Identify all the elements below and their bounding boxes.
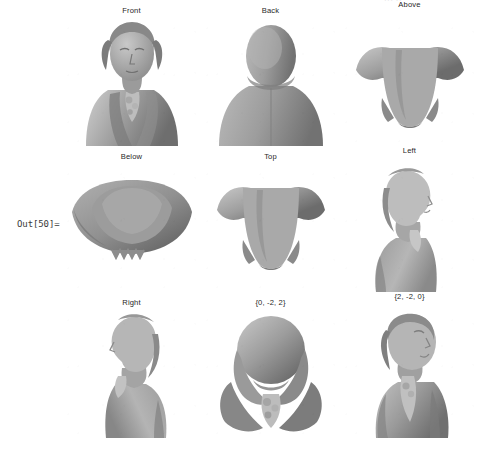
view-label: Top xyxy=(201,152,340,162)
view-grid-row: Below xyxy=(62,152,480,298)
view-render-left xyxy=(340,164,479,292)
view-cell-left[interactable]: Left xyxy=(340,152,479,298)
view-label: Below xyxy=(62,152,201,162)
view-grid-row: Right xyxy=(62,298,480,444)
view-label: Back xyxy=(201,6,340,16)
view-label: Left xyxy=(340,146,479,156)
view-cell-v022[interactable]: {0, -2, 2} xyxy=(201,298,340,444)
view-render-v220 xyxy=(340,310,479,438)
view-render-above xyxy=(340,18,479,146)
notebook-output-cell: ··· ·· Out[50]= Front xyxy=(0,0,480,456)
view-grid: Front xyxy=(62,6,480,456)
view-render-below xyxy=(62,164,201,292)
view-cell-back[interactable]: Back xyxy=(201,6,340,152)
view-label: {0, -2, 2} xyxy=(201,298,340,308)
view-cell-below[interactable]: Below xyxy=(62,152,201,298)
view-label: Above xyxy=(340,0,479,10)
view-render-v022 xyxy=(201,310,340,438)
view-cell-above[interactable]: Above xyxy=(340,6,479,152)
view-grid-row: Front xyxy=(62,6,480,152)
view-cell-v220[interactable]: {2, -2, 0} xyxy=(340,298,479,444)
view-cell-right[interactable]: Right xyxy=(62,298,201,444)
view-label: Right xyxy=(62,298,201,308)
view-cell-front[interactable]: Front xyxy=(62,6,201,152)
view-label: Front xyxy=(62,6,201,16)
out-prompt-label: Out[50]= xyxy=(17,219,60,229)
view-cell-top[interactable]: Top xyxy=(201,152,340,298)
view-render-front xyxy=(62,18,201,146)
view-render-right xyxy=(62,310,201,438)
view-label: {2, -2, 0} xyxy=(340,292,479,302)
view-render-back xyxy=(201,18,340,146)
view-render-top xyxy=(201,164,340,292)
